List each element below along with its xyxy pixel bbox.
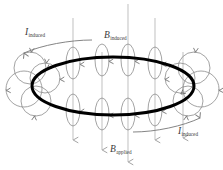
applied-field-lines <box>73 4 183 162</box>
induced-current-figure: Iinduced Binduced Bapplied Iinduced <box>0 0 223 170</box>
induced-field-ellipses-top <box>66 44 162 79</box>
label-b-applied: Bapplied <box>110 144 132 155</box>
label-i-induced-bottom-right: Iinduced <box>177 126 198 137</box>
label-i-induced-top-left: Iinduced <box>24 27 45 38</box>
label-b-induced: Binduced <box>104 30 127 41</box>
conducting-loop <box>32 57 194 115</box>
induced-current-arrow-top-left <box>24 40 92 53</box>
induced-current-arrow-bottom-right <box>133 118 200 132</box>
induced-current-arrows <box>24 40 200 132</box>
figure-canvas: Iinduced Binduced Bapplied Iinduced <box>0 0 223 170</box>
